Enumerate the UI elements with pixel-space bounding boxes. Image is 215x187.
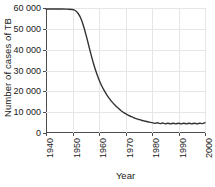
- x-tick-label: 1940: [45, 138, 55, 158]
- y-tick-label: 40 000: [13, 45, 41, 55]
- x-tick-mark: [73, 133, 74, 136]
- y-tick-label: 0: [36, 128, 41, 138]
- gridline-vertical: [205, 8, 206, 133]
- x-axis-title: Year: [46, 170, 205, 181]
- x-tick-label: 1980: [151, 138, 161, 158]
- x-tick-mark: [205, 133, 206, 136]
- y-tick-label: 60 000: [13, 3, 41, 13]
- x-tick-label: 1970: [125, 138, 135, 158]
- x-tick-mark: [179, 133, 180, 136]
- x-tick-label: 2000: [204, 138, 214, 158]
- tb-cases-curve: [46, 8, 205, 133]
- y-tick-label: 50 000: [13, 24, 41, 34]
- y-tick-label: 30 000: [13, 66, 41, 76]
- x-tick-mark: [126, 133, 127, 136]
- x-tick-mark: [99, 133, 100, 136]
- y-tick-label: 20 000: [13, 86, 41, 96]
- x-tick-label: 1990: [178, 138, 188, 158]
- plot-area: 010 00020 00030 00040 00050 00060 000 19…: [46, 8, 205, 133]
- y-tick-label: 10 000: [13, 107, 41, 117]
- x-tick-mark: [152, 133, 153, 136]
- x-tick-mark: [46, 133, 47, 136]
- y-axis-title: Number of cases of TB: [0, 0, 14, 135]
- tb-cases-line-chart: Number of cases of TB 010 00020 00030 00…: [0, 0, 215, 187]
- x-tick-label: 1960: [98, 138, 108, 158]
- x-tick-label: 1950: [72, 138, 82, 158]
